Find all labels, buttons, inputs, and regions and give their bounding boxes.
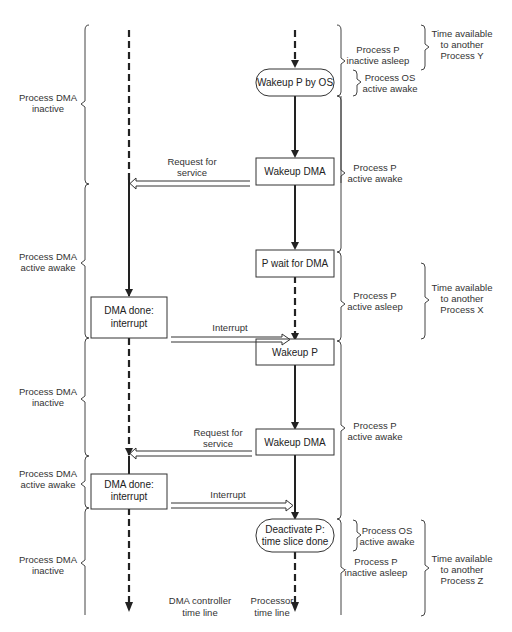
message-interrupt-2: Interrupt xyxy=(171,489,293,511)
time-z-line2: to another xyxy=(441,564,484,575)
os-state-label-2b: active awake xyxy=(360,536,415,547)
node-label: Wakeup DMA xyxy=(264,166,326,177)
p-state-labels: Process P inactive asleep Process OS act… xyxy=(345,44,418,578)
processor-node-wakeup-p: Wakeup P xyxy=(256,339,334,365)
arrowhead-icon xyxy=(291,242,299,250)
time-z-line1: Time available xyxy=(432,553,493,564)
p-state-label-5b: active awake xyxy=(348,431,403,442)
hollow-arrow-left-icon xyxy=(130,448,252,459)
hollow-arrow-left-icon xyxy=(130,178,250,189)
node-label-line2: interrupt xyxy=(111,491,148,502)
processor-timeline-label-1: Processor xyxy=(251,595,294,606)
dma-state-label-3a: Process DMA xyxy=(19,386,78,397)
dma-state-label-5a: Process DMA xyxy=(19,554,78,565)
time-x-line1: Time available xyxy=(432,282,493,293)
node-label: Wakeup DMA xyxy=(264,437,326,448)
arrowhead-icon xyxy=(125,289,133,297)
p-state-label-4b: active asleep xyxy=(347,301,402,312)
time-y-line1: Time available xyxy=(432,28,493,39)
dma-state-label-1a: Process DMA xyxy=(19,92,78,103)
dma-state-labels: Process DMA inactive Process DMA active … xyxy=(19,92,78,576)
dma-state-label-2a: Process DMA xyxy=(19,251,78,262)
p-state-label-4a: Process P xyxy=(353,290,396,301)
brace-p-state-1 xyxy=(337,25,345,96)
dma-state-label-1b: inactive xyxy=(32,103,64,114)
p-state-label-7b: inactive asleep xyxy=(345,567,408,578)
p-state-label-1a: Process P xyxy=(356,44,399,55)
os-state-label-2a: Process OS xyxy=(362,525,413,536)
dma-state-label-3b: inactive xyxy=(32,397,64,408)
time-x-line3: Process X xyxy=(440,304,484,315)
p-state-braces xyxy=(337,25,361,615)
message-label-line1: Interrupt xyxy=(210,489,246,500)
hollow-arrow-right-icon xyxy=(171,500,293,511)
time-y-line2: to another xyxy=(441,39,484,50)
arrowhead-icon xyxy=(291,60,299,68)
time-z-line3: Process Z xyxy=(441,575,484,586)
time-available-braces xyxy=(421,25,429,616)
brace-p-state-5 xyxy=(337,341,345,519)
p-state-label-7a: Process P xyxy=(354,556,397,567)
message-label-line2: service xyxy=(177,167,207,178)
brace-time-y xyxy=(421,25,429,70)
node-label: Wakeup P xyxy=(272,347,318,358)
brace-time-x xyxy=(421,263,429,339)
time-x-line2: to another xyxy=(441,293,484,304)
message-label-line1: Interrupt xyxy=(212,322,248,333)
p-state-label-1b: inactive asleep xyxy=(347,55,410,66)
node-label-line1: DMA done: xyxy=(104,305,153,316)
processor-node-wakeup-dma-2: Wakeup DMA xyxy=(256,429,334,455)
brace-os-state-1 xyxy=(353,70,361,96)
p-state-label-5a: Process P xyxy=(353,420,396,431)
dma-state-braces xyxy=(81,25,89,615)
os-state-label-1b: active awake xyxy=(363,83,418,94)
node-label-line1: DMA done: xyxy=(104,479,153,490)
processor-node-wakeup-p-by-os: Wakeup P by OS xyxy=(256,69,334,96)
message-interrupt-1: Interrupt xyxy=(171,322,290,345)
dma-timeline-label-2: time line xyxy=(182,607,217,618)
processor-node-p-wait-for-dma: P wait for DMA xyxy=(256,250,334,277)
message-label-line1: Request for xyxy=(193,427,242,438)
node-label: P wait for DMA xyxy=(262,258,329,269)
dma-timeline-label-1: DMA controller xyxy=(169,595,231,606)
dma-node-done-2: DMA done: interrupt xyxy=(91,474,167,509)
message-label-line1: Request for xyxy=(167,156,216,167)
dma-node-done-1: DMA done: interrupt xyxy=(91,297,167,338)
node-label-line1: Deactivate P: xyxy=(265,524,324,535)
processor-timeline-label-2: time line xyxy=(254,607,289,618)
os-state-label-1a: Process OS xyxy=(365,72,416,83)
processor-node-wakeup-dma-1: Wakeup DMA xyxy=(256,158,334,185)
dma-state-label-5b: inactive xyxy=(32,565,64,576)
message-request-for-service-2: Request for service xyxy=(130,427,252,459)
time-y-line3: Process Y xyxy=(440,50,484,61)
brace-p-state-4 xyxy=(337,252,345,341)
dma-process-timeline-diagram: DMA controller time line Processor time … xyxy=(0,0,512,632)
brace-dma-state-1 xyxy=(81,25,89,184)
brace-dma-state-3 xyxy=(81,338,89,456)
message-request-for-service-1: Request for service xyxy=(130,156,250,189)
brace-dma-state-4 xyxy=(81,456,89,508)
processor-node-deactivate-p: Deactivate P: time slice done xyxy=(256,519,334,552)
arrowhead-icon xyxy=(291,150,299,158)
node-label-line2: time slice done xyxy=(262,536,329,547)
p-state-label-3a: Process P xyxy=(353,162,396,173)
brace-dma-state-2 xyxy=(81,184,89,338)
dma-state-label-2b: active awake xyxy=(21,262,76,273)
node-label: Wakeup P by OS xyxy=(257,77,333,88)
p-state-label-3b: active awake xyxy=(348,173,403,184)
brace-time-z xyxy=(421,520,429,616)
arrowhead-icon xyxy=(125,602,133,612)
time-available-labels: Time available to another Process Y Time… xyxy=(432,28,493,586)
brace-dma-state-5 xyxy=(81,508,89,615)
dma-state-label-4b: active awake xyxy=(21,479,76,490)
node-label-line2: interrupt xyxy=(111,318,148,329)
dma-state-label-4a: Process DMA xyxy=(19,468,78,479)
message-label-line2: service xyxy=(203,438,233,449)
